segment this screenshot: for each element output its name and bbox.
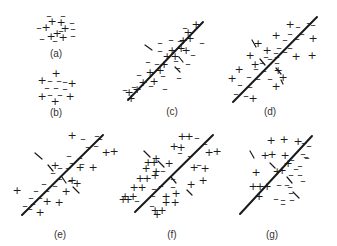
stroke-mark xyxy=(145,45,152,50)
negative-sample: – xyxy=(176,71,182,84)
negative-sample: – xyxy=(280,197,286,210)
positive-sample: + xyxy=(279,133,288,146)
positive-sample: + xyxy=(50,95,59,108)
negative-sample: – xyxy=(52,179,58,192)
positive-sample: + xyxy=(248,92,257,105)
negative-sample: – xyxy=(261,64,267,77)
panel-a: ––++––++–+–++–––(a) xyxy=(36,9,76,60)
panel-g: +++––++––+––––+++––+–––––++++––––(g) xyxy=(240,133,312,241)
negative-sample: – xyxy=(162,82,168,95)
negative-sample: – xyxy=(177,146,183,159)
negative-sample: – xyxy=(50,166,56,179)
positive-sample: + xyxy=(67,129,76,142)
classification-diagram: ––++––++–+–++–––(a)++–––+–––+––++(b)–++–… xyxy=(0,0,337,246)
positive-sample: + xyxy=(35,206,44,219)
panel-label-b: (b) xyxy=(50,107,62,118)
positive-sample: + xyxy=(198,174,207,187)
positive-sample: + xyxy=(67,77,76,90)
negative-sample: – xyxy=(148,79,154,92)
negative-sample: – xyxy=(39,32,45,45)
positive-sample: + xyxy=(191,18,200,31)
panel-label-a: (a) xyxy=(50,48,62,59)
positive-sample: + xyxy=(54,196,63,209)
positive-sample: + xyxy=(308,32,317,45)
positive-sample: + xyxy=(164,157,173,170)
negative-sample: – xyxy=(27,202,33,215)
panel-label-e: (e) xyxy=(54,229,66,240)
panel-f: ++––++–++–++++++––+++++–––++++–++++––++–… xyxy=(118,130,221,241)
positive-sample: + xyxy=(37,90,46,103)
negative-sample: – xyxy=(310,18,316,31)
negative-sample: – xyxy=(134,194,140,207)
panel-label-d: (d) xyxy=(264,106,276,117)
negative-sample: – xyxy=(65,161,71,174)
panel-e: +–––––++––––+––++–––+––++––+––++–––+(e) xyxy=(12,129,118,241)
negative-sample: – xyxy=(299,27,305,40)
positive-sample: + xyxy=(266,134,275,147)
negative-sample: – xyxy=(57,172,63,185)
panel-c: –++–––++––+++––++––+–––++–––++–––+++(c) xyxy=(122,18,205,118)
positive-sample: + xyxy=(251,166,260,179)
negative-sample: – xyxy=(160,164,166,177)
negative-sample: – xyxy=(93,139,99,152)
positive-sample: + xyxy=(75,161,84,174)
negative-sample: – xyxy=(52,34,58,47)
positive-sample: + xyxy=(109,145,118,158)
positive-sample: + xyxy=(262,180,271,193)
stroke-mark xyxy=(250,151,254,158)
panel-d: +–––+––+––+––+––+––+++–––+––+++–––––+––+… xyxy=(227,16,317,118)
positive-sample: + xyxy=(277,164,286,177)
positive-sample: + xyxy=(307,49,316,62)
positive-sample: + xyxy=(186,178,195,191)
negative-sample: – xyxy=(289,193,295,206)
panel-b: ++–––+–––+––++(b) xyxy=(37,67,76,119)
negative-sample: – xyxy=(70,29,76,42)
negative-sample: – xyxy=(276,178,282,191)
negative-sample: – xyxy=(199,36,205,49)
positive-sample: + xyxy=(189,161,198,174)
panel-label-f: (f) xyxy=(167,229,176,240)
stroke-mark xyxy=(187,190,192,195)
negative-sample: – xyxy=(194,131,200,144)
negative-sample: – xyxy=(300,174,306,187)
negative-sample: – xyxy=(185,57,191,70)
negative-sample: – xyxy=(255,72,261,85)
positive-sample: + xyxy=(291,50,300,63)
positive-sample: + xyxy=(65,90,74,103)
negative-sample: – xyxy=(160,69,166,82)
negative-sample: – xyxy=(58,24,64,37)
panel-label-c: (c) xyxy=(166,106,178,117)
positive-sample: + xyxy=(126,92,135,105)
positive-sample: + xyxy=(212,145,221,158)
panel-label-g: (g) xyxy=(266,229,278,240)
positive-sample: + xyxy=(254,190,263,203)
positive-sample: + xyxy=(253,37,262,50)
negative-sample: – xyxy=(294,32,300,45)
positive-sample: + xyxy=(181,44,190,57)
positive-sample: + xyxy=(184,130,193,143)
negative-sample: – xyxy=(85,140,91,153)
negative-sample: – xyxy=(267,52,273,65)
positive-sample: + xyxy=(72,177,81,190)
positive-sample: + xyxy=(12,184,21,197)
negative-sample: – xyxy=(273,192,279,205)
positive-sample: + xyxy=(88,161,97,174)
negative-sample: – xyxy=(282,45,288,58)
positive-sample: + xyxy=(227,72,236,85)
positive-sample: + xyxy=(271,80,280,93)
negative-sample: – xyxy=(190,48,196,61)
positive-sample: + xyxy=(267,148,276,161)
negative-sample: – xyxy=(304,151,310,164)
positive-sample: + xyxy=(123,193,132,206)
stroke-mark xyxy=(35,153,42,159)
positive-sample: + xyxy=(170,196,179,209)
positive-sample: + xyxy=(137,181,146,194)
negative-sample: – xyxy=(287,27,293,40)
negative-sample: – xyxy=(233,87,239,100)
positive-sample: + xyxy=(152,208,161,221)
